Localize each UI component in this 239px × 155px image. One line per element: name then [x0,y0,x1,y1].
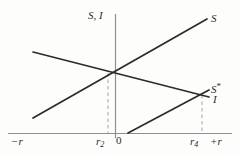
curve-s-star-line [128,90,209,133]
x-axis-left-label: −r [11,136,23,147]
x-tick-label-r2-subscript: 2 [100,140,104,149]
x-tick-label-r2: r2 [96,136,104,149]
x-tick-label-r4-subscript: 4 [194,140,198,149]
y-axis-label: S, I [88,10,103,21]
curve-s-label: S [211,13,217,24]
origin-label: 0 [116,135,122,146]
interest-rate-saving-investment-diagram: S, I S S* I −r r2 0 r4 +r [0,0,239,155]
x-axis-right-label: +r [210,136,222,147]
curve-s-star-label-mark: * [217,81,222,91]
curve-s-line [33,19,207,118]
curve-i-line [33,52,209,97]
curve-i-label: I [213,94,217,105]
x-tick-label-r4: r4 [190,136,198,149]
plot-canvas [0,0,239,155]
